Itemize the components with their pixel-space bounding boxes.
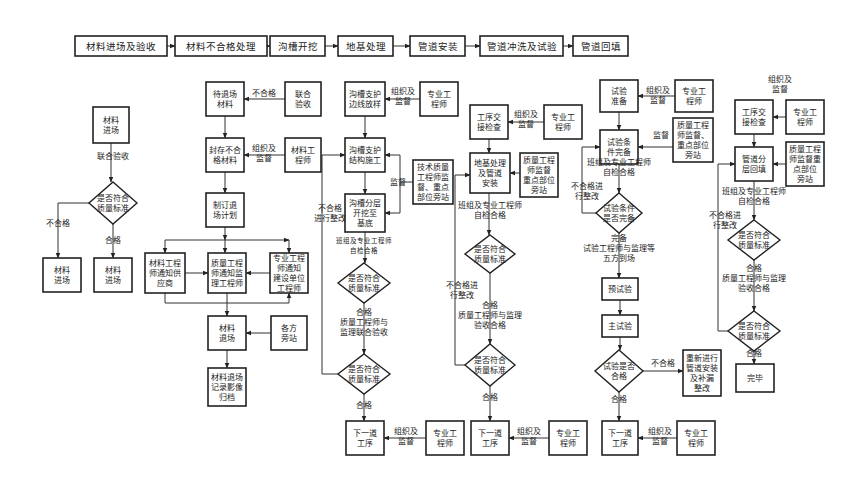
process-node-d8: 专业工程师 — [549, 421, 587, 455]
node-label: 开挖至 — [353, 208, 377, 218]
node-label: 下一道 — [478, 428, 502, 438]
process-step-label: 材料不合格处理 — [186, 41, 256, 52]
process-node-f4: 质量工程师监督重点部位旁站 — [786, 142, 824, 186]
node-label: 工序 — [482, 438, 498, 448]
edge-label: 自检合格 — [474, 210, 506, 220]
process-node-e11: 专业工程师 — [677, 421, 715, 455]
node-label: 师监督重 — [789, 154, 821, 164]
node-label: 各方 — [281, 323, 297, 333]
node-label: 试验 — [611, 86, 627, 96]
edge-label: 合格 — [746, 263, 762, 273]
node-label: 接检查 — [477, 122, 501, 132]
node-label: 是否符合 — [738, 230, 770, 240]
process-step-label: 材料进场及验收 — [86, 41, 156, 52]
edge-label: 质量工程师与监理 — [722, 273, 786, 283]
edge-label: 监理联合验收 — [340, 327, 388, 337]
node-label: 预试验 — [608, 284, 632, 294]
node-label: 工程师监 — [417, 172, 449, 182]
node-label: 师通知监 — [211, 268, 243, 278]
node-label: 准备 — [611, 96, 627, 106]
decision-node-d5: 是否符合质量标准 — [465, 235, 515, 273]
node-label: 沟槽分层 — [349, 198, 381, 208]
node-label: 质量标准 — [474, 365, 506, 375]
node-label: 重点部位 — [677, 140, 709, 150]
process-node-e7: 主试验 — [602, 315, 638, 337]
node-label: 师监督 — [527, 165, 551, 175]
node-label: 程师 — [686, 96, 702, 106]
edge-label: 合格 — [356, 400, 372, 410]
edge-label: 监督 — [650, 95, 666, 105]
node-label: 重新进行 — [686, 353, 718, 363]
process-step-label: 管道冲洗及试验 — [487, 41, 557, 52]
edge-label: 监督 — [398, 436, 414, 446]
node-label: 质量工程 — [789, 144, 821, 154]
node-label: 技术质量 — [417, 162, 449, 172]
process-node-e6: 预试验 — [602, 278, 638, 300]
node-label: 是否完备 — [603, 213, 635, 223]
edge-label: 不合格 — [46, 218, 70, 228]
edge-label: 合格 — [482, 300, 498, 310]
process-step-label: 管道回填 — [581, 41, 621, 52]
edge-label: 质量工程师与 — [340, 317, 388, 327]
node-label: 整改 — [694, 383, 710, 393]
process-node-b5: 制订退场计划 — [206, 193, 244, 227]
edge-label: 完备 — [611, 233, 627, 243]
edge-label: 监督 — [652, 436, 668, 446]
node-label: 及补漏 — [690, 373, 714, 383]
edge-label: 不合格 — [252, 88, 276, 98]
edge-label: 验收合格 — [738, 283, 770, 293]
process-node-f1: 工序交接检查 — [735, 100, 773, 134]
edge-label: 合格 — [356, 307, 372, 317]
process-step-s1: 材料进场及验收 — [75, 36, 167, 56]
node-label: 待退场 — [213, 89, 237, 99]
process-node-b1: 待退场材料 — [206, 82, 244, 116]
node-label: 程师 — [688, 438, 704, 448]
node-label: 材料 — [219, 323, 235, 333]
edge-label: 组织及 — [768, 74, 792, 84]
edge-label: 行整改 — [575, 191, 599, 201]
node-label: 质量标准 — [348, 283, 380, 293]
process-node-b4: 材料工程师 — [285, 138, 321, 172]
node-label: 质量标准 — [474, 254, 506, 264]
connector-arrow — [322, 155, 345, 374]
node-label: 下一道 — [608, 428, 632, 438]
node-label: 旁站 — [685, 150, 701, 160]
process-step-s7: 管道回填 — [573, 36, 628, 56]
edge-label: 验收合格 — [474, 320, 506, 330]
node-label: 试验条件 — [603, 203, 635, 213]
edge-label: 五方到场 — [603, 253, 635, 263]
edge-label: 合格 — [482, 392, 498, 402]
node-label: 程师 — [431, 99, 447, 109]
node-label: 质量工程 — [523, 155, 555, 165]
node-label: 专业工 — [684, 428, 708, 438]
process-node-c2: 专业工程师 — [420, 82, 458, 116]
decision-node-f6: 是否符合质量标准 — [728, 311, 780, 351]
node-label: 工程师 — [277, 283, 301, 293]
process-node-b11: 材料退场记录影像归档 — [208, 368, 246, 406]
node-label: 完毕 — [747, 373, 763, 383]
edge-label: 班组及专业工程师 — [722, 186, 786, 196]
process-node-c3: 沟槽支护结构施工 — [345, 138, 385, 172]
node-label: 质量标准 — [348, 374, 380, 384]
node-label: 边线放样 — [349, 99, 381, 109]
node-label: 程师 — [797, 117, 813, 127]
node-label: 旁站 — [531, 185, 547, 195]
node-label: 基底 — [357, 218, 373, 228]
edge-label: 班组及专业工程师 — [458, 200, 522, 210]
edge-label: 监督 — [518, 119, 534, 129]
process-step-s2: 材料不合格处理 — [175, 36, 267, 56]
node-label: 主试验 — [608, 321, 632, 331]
edge-label: 监督 — [256, 153, 272, 163]
process-node-c8: 下一道工序 — [346, 421, 384, 455]
node-label: 材料 — [105, 265, 121, 275]
decision-node-e8: 试验是否合格 — [595, 350, 643, 392]
node-label: 部位旁站 — [417, 192, 449, 202]
edge-label: 监督 — [521, 436, 537, 446]
node-label: 材料工 — [291, 145, 315, 155]
node-label: 联合 — [295, 89, 311, 99]
edge-label: 质量工程师与监理 — [458, 310, 522, 320]
decision-node-a2: 是否符合质量标准 — [89, 182, 137, 224]
node-label: 进场 — [103, 126, 119, 135]
node-label: 程师 — [555, 122, 571, 132]
process-node-b7: 质量工程师通知监理工程师 — [208, 253, 246, 293]
